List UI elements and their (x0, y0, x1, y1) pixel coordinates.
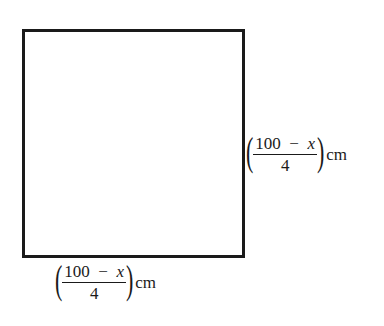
close-paren: ) (126, 260, 133, 300)
numerator-variable: x (307, 134, 315, 153)
minus-sign: − (285, 134, 303, 153)
numerator-variable: x (116, 262, 124, 281)
unit-label: cm (326, 146, 347, 163)
fraction: 100 − x 4 (62, 263, 126, 302)
close-paren: ) (317, 132, 324, 172)
bottom-side-length-label: ( 100 − x 4 ) cm (57, 262, 156, 302)
fraction-numerator: 100 − x (62, 263, 126, 283)
open-paren: ( (55, 260, 62, 300)
fraction-denominator: 4 (90, 283, 99, 302)
right-side-length-label: ( 100 − x 4 ) cm (248, 134, 347, 174)
square-shape (22, 29, 245, 258)
numerator-constant: 100 (64, 262, 90, 281)
fraction-numerator: 100 − x (253, 135, 317, 155)
fraction-denominator: 4 (281, 155, 290, 174)
minus-sign: − (94, 262, 112, 281)
fraction: 100 − x 4 (253, 135, 317, 174)
numerator-constant: 100 (255, 134, 281, 153)
unit-label: cm (135, 274, 156, 291)
open-paren: ( (246, 132, 253, 172)
